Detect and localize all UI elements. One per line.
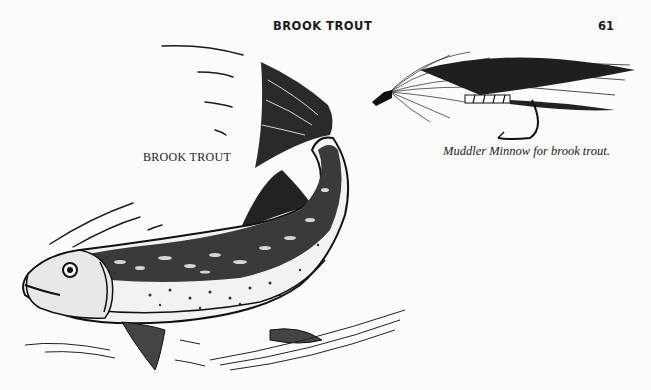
running-title: BROOK TROUT: [273, 19, 372, 33]
figure-caption-fly: Muddler Minnow for brook trout.: [443, 144, 610, 159]
book-page: BROOK TROUT 61: [0, 0, 651, 390]
motion-lines: [50, 46, 243, 247]
page-number: 61: [598, 19, 614, 33]
figure-label-brook-trout: BROOK TROUT: [143, 150, 231, 165]
muddler-minnow-fly-icon: [360, 40, 651, 140]
brook-trout-illustration-icon: [0, 40, 420, 390]
